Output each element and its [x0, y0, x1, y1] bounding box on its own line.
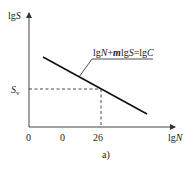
figure-caption: a) — [102, 149, 110, 161]
sv-tick-label: Sv — [11, 84, 20, 97]
x-tick-0b: 0 — [60, 132, 65, 143]
fatigue-curve-diagram: lgN+mlgS=lgC lgS lgN Sv 0 0 26 a) — [0, 0, 195, 171]
x-tick-26: 26 — [93, 132, 103, 143]
x-tick-0a: 0 — [26, 132, 31, 143]
equation-leader-line — [79, 59, 92, 77]
y-axis-label: lgS — [8, 10, 21, 21]
equation-label: lgN+mlgS=lgC — [93, 47, 154, 58]
x-axis-label: lgN — [168, 132, 184, 143]
sn-curve-line — [43, 57, 147, 114]
